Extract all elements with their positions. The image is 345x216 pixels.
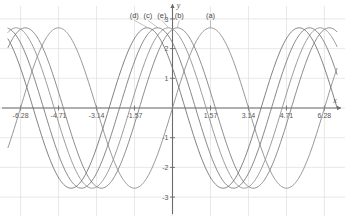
x-tick-label: 3.14 [242, 112, 256, 119]
x-tick-label: 6.28 [318, 112, 332, 119]
y-axis-arrow [170, 4, 174, 8]
chart-container: -6.28-4.71-3.14-1.571.573.144.716.28321-… [0, 0, 345, 216]
curve-label-leader [148, 20, 158, 27]
y-tick-label: -3 [162, 194, 168, 201]
x-tick-label: 1.57 [204, 112, 218, 119]
curve-label-a: (a) [206, 11, 216, 20]
x-axis-arrow [337, 106, 341, 110]
y-tick-label: -2 [162, 164, 168, 171]
x-tick-label: -6.28 [13, 112, 29, 119]
y-tick-label: 1 [165, 75, 169, 82]
x-tick-label: 4.71 [280, 112, 294, 119]
curve-label-c: (c) [143, 11, 152, 20]
curve-label-leader [134, 20, 147, 27]
axis-name-layer: xy [176, 1, 338, 105]
axis-layer [2, 4, 341, 214]
curve-label-d: (d) [130, 11, 140, 20]
y-axis-name: y [176, 1, 181, 10]
x-tick-label: -3.14 [89, 112, 105, 119]
x-axis-name: x [332, 96, 337, 105]
curve-label-b: (b) [175, 11, 185, 20]
curve-label-e: (e) [157, 11, 167, 20]
sinusoid-plot: -6.28-4.71-3.14-1.571.573.144.716.28321-… [0, 0, 345, 216]
curve-label-leader [177, 20, 179, 27]
x-tick-label: -4.71 [51, 112, 67, 119]
